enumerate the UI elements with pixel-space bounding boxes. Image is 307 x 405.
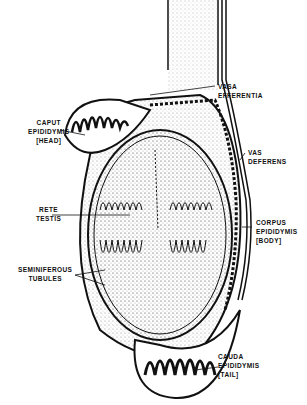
label-cauda-epididymis: CAUDA EPIDIDYMIS [TAIL] [218,352,260,379]
label-vasa-efferentia: VASA EFFERENTIA [218,82,263,100]
label-rete-testis: RETE TESTIS [36,205,61,223]
label-seminiferous-tubules: SEMINIFEROUS TUBULES [18,265,72,283]
label-vas-deferens: VAS DEFERENS [248,148,287,166]
testis-diagram [0,0,307,405]
testis-body [88,130,232,340]
label-caput-epididymis: CAPUT EPIDIDYMIS [HEAD] [28,118,70,145]
label-corpus-epididymis: CORPUS EPIDIDYMIS [BODY] [256,218,298,245]
